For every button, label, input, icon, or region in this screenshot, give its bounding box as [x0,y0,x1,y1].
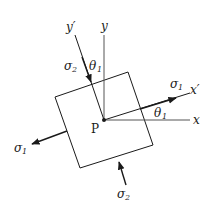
sigma1-left-label: σ 1 [14,141,27,156]
y-label: y [100,19,108,33]
svg-text:1: 1 [162,112,167,121]
sigma2-bottom-arrow [119,162,126,185]
sigma1-right-label: σ 1 [170,77,183,92]
svg-text:1: 1 [178,83,183,92]
svg-text:1: 1 [22,147,27,156]
point-p-dot [102,118,106,122]
svg-text:θ: θ [154,106,162,120]
point-p-label: P [91,122,99,136]
svg-text:2: 2 [71,65,77,74]
x-label: x [193,113,200,127]
stress-element-diagram: y′ y x x′ P σ 2 θ 1 σ 1 θ 1 σ 1 σ 2 [0,0,214,206]
theta1-right-label: θ 1 [154,106,167,121]
x-prime-label: x′ [190,83,200,97]
sigma1-left-arrow [32,131,67,144]
svg-text:1: 1 [97,65,102,74]
sigma2-top-label: σ 2 [64,59,77,74]
svg-text:θ: θ [89,59,97,73]
sigma2-bottom-label: σ 2 [117,187,130,202]
svg-text:2: 2 [124,193,130,202]
theta1-top-label: θ 1 [89,59,102,74]
y-prime-label: y′ [65,20,76,34]
